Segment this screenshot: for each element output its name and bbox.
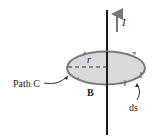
radius-label: r — [87, 54, 91, 65]
line-element-label: ds — [129, 102, 138, 113]
ds-leader-arrowhead-icon — [135, 83, 139, 87]
magnetic-field-label: B — [87, 87, 94, 98]
path-c-label: Path C — [13, 78, 40, 89]
current-label: I — [121, 16, 127, 28]
ampere-law-diagram: I r Path C B ds — [0, 0, 165, 140]
loop-direction-arrow-icon — [132, 52, 136, 55]
path-c-leader-arrow — [44, 76, 68, 84]
